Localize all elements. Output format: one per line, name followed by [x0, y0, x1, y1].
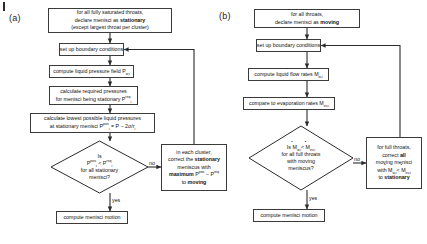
node-a-start-line2: declare menisci as stationary — [75, 17, 146, 25]
node-a-required-line1: calculate required pressures — [60, 88, 127, 96]
node-b-decision-text: Is Mw,i < Mev,i for all full throats wit… — [249, 126, 353, 190]
node-b-boundary: set up boundary conditions — [256, 39, 321, 52]
panel-label-b: (b) — [219, 11, 231, 21]
node-b-evap-rates: compare to evaporation rates Mev,i — [243, 97, 335, 110]
node-a-end-label: compute menisci motion — [63, 214, 120, 222]
node-b-correct-line3: moving menisci — [376, 159, 413, 167]
node-a-pressure-field-label: compute liquid pressure field Pw,i — [53, 68, 130, 76]
node-b-start: for all throats, declare menisci as movi… — [254, 9, 360, 28]
node-b-decision-line4: meniscus? — [288, 165, 313, 172]
edge-a-yes: yes — [112, 197, 120, 203]
node-a-decision-text: Is Pposi < Preqi for all stationary meni… — [51, 141, 148, 193]
panel-label-a: (a) — [9, 13, 21, 23]
node-b-start-line2: declare menisci as moving — [275, 19, 339, 27]
edge-b-no: no — [354, 156, 360, 162]
node-a-end: compute menisci motion — [56, 211, 128, 224]
node-a-correct-line2: correct the stationary — [168, 156, 220, 164]
node-b-end: compute menisci motion — [253, 209, 325, 222]
node-a-lowest-line1: calculate lowest possible liquid pressur… — [44, 115, 141, 123]
node-a-required-line2: for menisci being stationary Preqi — [56, 96, 131, 104]
node-b-correct-line4: with Mw,i < Mev,i — [377, 167, 411, 175]
node-a-required: calculate required pressures for menisci… — [49, 86, 138, 105]
node-b-correct: for full throats, correct all moving men… — [366, 137, 422, 189]
node-b-decision-line1: Is Mw,i < Mev,i — [287, 144, 315, 151]
node-b-decision-line3: with moving — [287, 158, 315, 165]
node-b-start-line1: for all throats, — [291, 11, 323, 19]
node-a-decision: Is Pposi < Preqi for all stationary meni… — [51, 141, 148, 193]
node-a-boundary-label: set up boundary conditions — [60, 46, 123, 54]
node-b-boundary-label: set up boundary conditions — [257, 42, 320, 50]
corner-mark — [3, 2, 5, 11]
node-a-start-line3: (except largest throat per cluster) — [71, 24, 149, 32]
node-b-correct-line5: to stationary — [378, 174, 409, 182]
node-a-lowest-line2: at stationary menisci Pposi = P − 2σ/ri — [50, 123, 135, 131]
node-a-correct-line4: maximum Ppos − Preq — [169, 171, 219, 179]
node-a-start-line1: for all fully saturated throats, — [77, 9, 144, 17]
node-a-lowest: calculate lowest possible liquid pressur… — [30, 113, 155, 133]
node-b-decision-line2: for all full throats — [282, 151, 321, 158]
node-a-pressure-field: compute liquid pressure field Pw,i — [49, 65, 134, 78]
node-a-correct-line1: in each cluster, — [176, 149, 211, 157]
node-a-correct: in each cluster, correct the stationary … — [161, 144, 227, 191]
node-a-decision-line4: menisci? — [89, 174, 110, 181]
node-a-decision-line2: Pposi < Preqi — [87, 160, 112, 167]
node-a-boundary: set up boundary conditions — [59, 43, 124, 56]
node-b-decision: Is Mw,i < Mev,i for all full throats wit… — [249, 126, 353, 190]
node-b-flow-rates: compute liquid flow rates Mw,i — [248, 68, 329, 81]
node-b-correct-line1: for full throats, — [377, 144, 411, 152]
node-b-end-label: compute menisci motion — [260, 212, 317, 220]
node-a-start: for all fully saturated throats, declare… — [48, 8, 172, 33]
edge-a-no: no — [149, 160, 155, 166]
node-a-correct-line5: to moving — [182, 179, 207, 187]
node-b-flow-rates-label: compute liquid flow rates Mw,i — [254, 71, 322, 79]
node-b-evap-rates-label: compare to evaporation rates Mev,i — [249, 100, 329, 108]
node-a-decision-line3: for all stationary — [81, 167, 118, 174]
edge-b-yes: yes — [309, 195, 317, 201]
node-a-decision-line1: Is — [97, 153, 101, 160]
node-b-correct-line2: correct all — [382, 152, 406, 160]
flowchart-figure: (a) for all fully saturated throats, dec… — [0, 0, 427, 244]
